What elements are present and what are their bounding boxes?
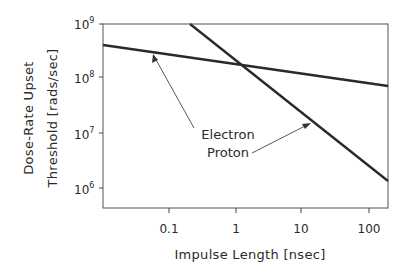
x-tick-label-1: 1 <box>232 222 240 236</box>
y-axis-tick-labels: 109 108 107 106 <box>74 16 94 197</box>
x-axis-title: Impulse Length [nsec] <box>174 247 325 262</box>
x-tick-label-0.1: 0.1 <box>159 222 178 236</box>
y-tick-label-1e6: 106 <box>74 181 94 197</box>
x-axis-tick-labels: 0.1 1 10 100 <box>159 222 380 236</box>
electron-label: Electron <box>201 127 254 142</box>
y-tick-label-1e8: 108 <box>74 70 94 86</box>
proton-annotation-arrow <box>252 123 311 153</box>
dose-rate-chart: 109 108 107 106 0.1 1 10 100 Impulse Len… <box>0 0 408 279</box>
y-tick-label-1e9: 109 <box>74 16 94 32</box>
x-tick-label-10: 10 <box>293 222 308 236</box>
y-axis-title-line1: Dose-Rate Upset <box>21 61 36 175</box>
electron-annotation-arrow <box>152 54 194 128</box>
y-axis-ticks <box>99 24 103 188</box>
arrowhead-icon <box>302 123 311 129</box>
x-axis-ticks <box>169 208 369 213</box>
y-axis-title-line2: Threshold [rads/sec] <box>45 49 60 189</box>
proton-label: Proton <box>207 145 249 160</box>
y-tick-label-1e7: 107 <box>74 126 94 142</box>
x-tick-label-100: 100 <box>358 222 381 236</box>
electron-series-line <box>103 45 388 86</box>
